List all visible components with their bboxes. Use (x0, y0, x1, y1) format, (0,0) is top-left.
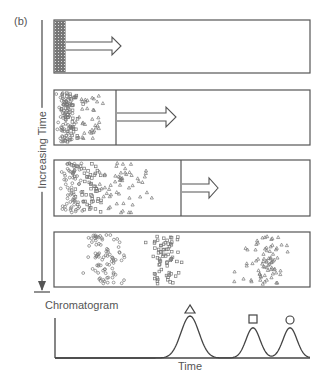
chromatogram-xlabel: Time (178, 360, 202, 372)
column-stage-2 (54, 90, 310, 145)
chromatogram-plot (55, 305, 310, 358)
time-axis-label: Increasing Time (36, 108, 48, 192)
diagram-canvas (0, 0, 325, 383)
column-stage-1 (54, 20, 310, 73)
chromatogram-title: Chromatogram (45, 299, 118, 311)
sample-band (55, 21, 66, 73)
circle-peak-marker-icon (286, 316, 294, 324)
column-stage-3 (54, 160, 310, 216)
square-peak-marker-icon (249, 315, 257, 323)
column-stage-4 (54, 232, 310, 287)
triangle-peak-marker-icon (185, 305, 195, 313)
